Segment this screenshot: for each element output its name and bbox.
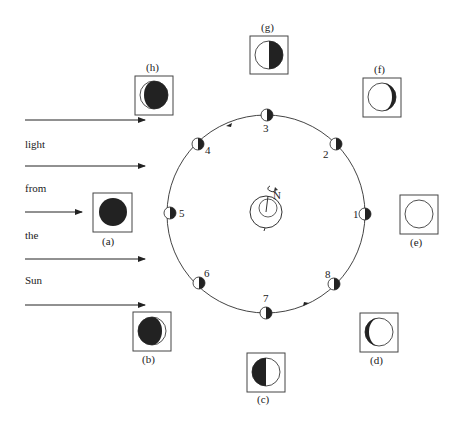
svg-text:2: 2 (323, 148, 329, 160)
phase-view-g: (g) (250, 21, 288, 74)
svg-text:(b): (b) (142, 353, 155, 366)
orbit-moon-6: 6 (193, 267, 210, 289)
orbit-moon-2: 2 (323, 138, 342, 160)
moon-phases-diagram: light from the Sun N 1 2 3 4 5 (0, 0, 457, 424)
phase-view-d: (d) (360, 313, 398, 367)
orbit-moon-3: 3 (261, 109, 273, 134)
svg-text:3: 3 (263, 122, 269, 134)
svg-text:6: 6 (204, 267, 210, 279)
orbit-moon-1: 1 (353, 208, 371, 220)
orbit-moon-4: 4 (192, 138, 211, 156)
phase-view-a: (a) (93, 193, 132, 248)
phase-view-c: (c) (247, 353, 285, 406)
svg-text:7: 7 (263, 292, 269, 304)
svg-text:4: 4 (205, 144, 211, 156)
svg-text:(a): (a) (102, 235, 115, 248)
orbit-moon-5: 5 (164, 207, 185, 219)
sunlight-text-from: from (25, 182, 47, 194)
phase-view-b: (b) (133, 312, 171, 366)
svg-text:(d): (d) (370, 354, 383, 367)
sunlight-text-sun: Sun (25, 274, 43, 286)
phase-view-h: (h) (135, 61, 173, 115)
svg-text:5: 5 (179, 207, 185, 219)
phase-view-f: (f) (363, 63, 401, 117)
orbit-moon-7: 7 (260, 292, 272, 319)
sunlight-text-light: light (25, 138, 45, 150)
earth: N (250, 186, 282, 231)
svg-text:8: 8 (325, 268, 331, 280)
phase-view-e: (e) (400, 195, 438, 249)
svg-text:(c): (c) (257, 393, 270, 406)
orbit-direction-arrow (226, 123, 232, 127)
north-label: N (273, 189, 281, 201)
svg-text:1: 1 (353, 208, 359, 220)
svg-text:(h): (h) (146, 61, 159, 74)
svg-text:(g): (g) (261, 21, 274, 34)
svg-text:(e): (e) (410, 236, 423, 249)
sunlight-text-the: the (25, 229, 39, 241)
svg-text:(f): (f) (374, 63, 385, 76)
orbit-moon-8: 8 (325, 268, 340, 290)
